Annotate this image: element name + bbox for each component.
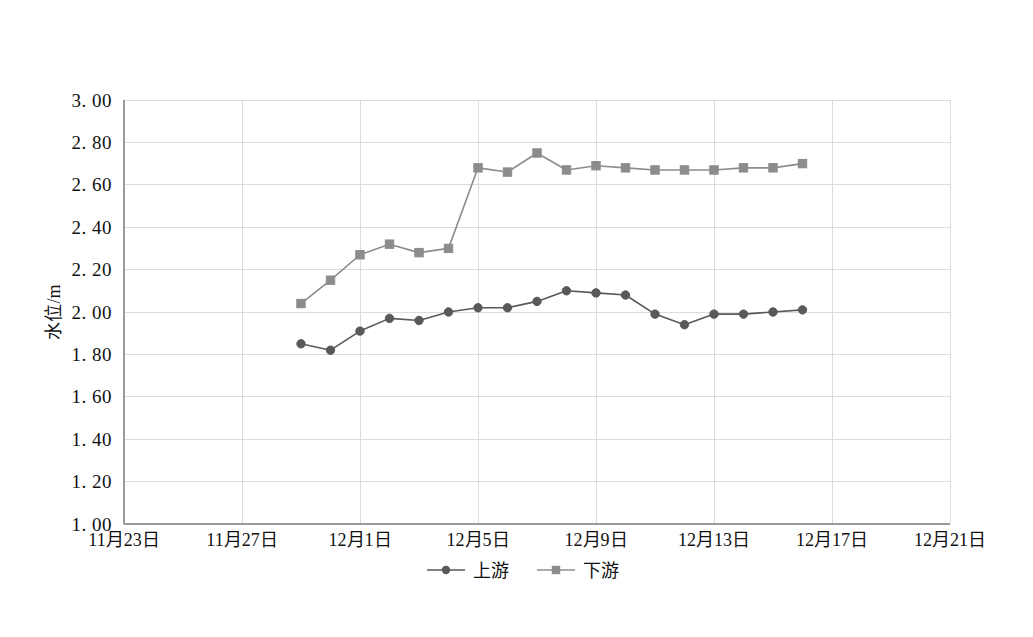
data-point-marker: [326, 276, 334, 284]
legend-marker-icon: [552, 566, 560, 574]
x-tick-label: 12月5日: [447, 530, 510, 550]
x-tick-label: 12月13日: [678, 530, 750, 550]
data-point-marker: [533, 297, 541, 305]
y-axis-title: 水位/m: [44, 284, 64, 339]
data-point-marker: [474, 164, 482, 172]
data-point-marker: [474, 304, 482, 312]
y-tick-label: 1. 80: [72, 344, 113, 365]
chart-svg: 1. 001. 201. 401. 601. 802. 002. 202. 40…: [0, 0, 1033, 637]
data-point-marker: [444, 308, 452, 316]
data-point-marker: [798, 159, 806, 167]
data-point-marker: [356, 327, 364, 335]
data-point-marker: [385, 240, 393, 248]
y-tick-label: 2. 20: [72, 259, 113, 280]
data-point-marker: [562, 287, 570, 295]
x-tick-label: 12月17日: [796, 530, 868, 550]
data-point-marker: [739, 164, 747, 172]
legend-label: 下游: [583, 561, 619, 581]
data-point-marker: [326, 346, 334, 354]
water-level-chart: 1. 001. 201. 401. 601. 802. 002. 202. 40…: [0, 0, 1033, 637]
data-point-marker: [592, 289, 600, 297]
y-tick-label: 3. 00: [72, 90, 113, 111]
x-tick-label: 12月1日: [329, 530, 392, 550]
data-point-marker: [710, 166, 718, 174]
data-point-marker: [562, 166, 570, 174]
data-point-marker: [533, 149, 541, 157]
legend-label: 上游: [473, 561, 509, 581]
x-tick-label: 12月9日: [565, 530, 628, 550]
data-point-marker: [356, 251, 364, 259]
data-point-marker: [621, 164, 629, 172]
data-point-marker: [710, 310, 718, 318]
data-point-marker: [297, 340, 305, 348]
y-tick-label: 2. 60: [72, 174, 113, 195]
data-point-marker: [651, 310, 659, 318]
data-point-marker: [444, 244, 452, 252]
y-axis-title-text: 水位/m: [44, 284, 64, 339]
data-point-marker: [297, 299, 305, 307]
data-point-marker: [769, 308, 777, 316]
data-point-marker: [415, 316, 423, 324]
x-tick-label: 11月23日: [88, 530, 159, 550]
y-tick-label: 1. 40: [72, 429, 113, 450]
y-tick-label: 1. 20: [72, 471, 113, 492]
data-point-marker: [739, 310, 747, 318]
data-point-marker: [503, 304, 511, 312]
x-tick-label: 11月27日: [206, 530, 277, 550]
legend-marker-icon: [442, 566, 450, 574]
y-tick-label: 2. 00: [72, 302, 113, 323]
data-point-marker: [680, 166, 688, 174]
data-point-marker: [651, 166, 659, 174]
data-point-marker: [385, 314, 393, 322]
y-tick-label: 1. 60: [72, 386, 113, 407]
data-point-marker: [503, 168, 511, 176]
data-point-marker: [798, 306, 806, 314]
data-point-marker: [680, 321, 688, 329]
data-point-marker: [415, 248, 423, 256]
data-point-marker: [769, 164, 777, 172]
y-tick-label: 2. 80: [72, 132, 113, 153]
y-tick-label: 2. 40: [72, 217, 113, 238]
x-tick-label: 12月21日: [914, 530, 986, 550]
data-point-marker: [621, 291, 629, 299]
data-point-marker: [592, 162, 600, 170]
